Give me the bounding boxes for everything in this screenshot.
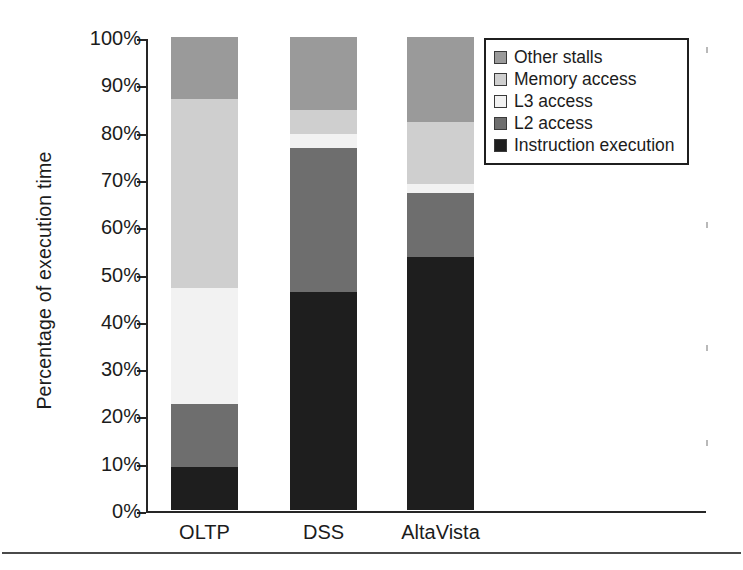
legend-item-label: L2 access: [514, 114, 593, 133]
legend-swatch-icon: [494, 73, 507, 86]
figure: Percentage of execution time 100%90%80%7…: [0, 0, 743, 570]
scan-speckle: [706, 47, 708, 53]
y-axis-title: Percentage of execution time: [33, 61, 56, 501]
y-axis-tick-label: 90%: [101, 74, 141, 96]
legend-item-label: Other stalls: [514, 48, 603, 67]
legend-item[interactable]: L2 access: [494, 112, 675, 134]
stacked-bar-dss: [290, 37, 357, 510]
y-axis-tick-label: 30%: [101, 358, 141, 380]
x-axis-line: [146, 511, 706, 513]
bar-segment: [171, 467, 238, 510]
y-axis-tick-label: 80%: [101, 122, 141, 144]
legend-swatch-icon: [494, 139, 507, 152]
legend-item[interactable]: L3 access: [494, 90, 675, 112]
legend-item-label: Memory access: [514, 70, 637, 89]
y-axis-tick-label: 70%: [101, 169, 141, 191]
legend-item[interactable]: Instruction execution: [494, 134, 675, 156]
legend-item-label: L3 access: [514, 92, 593, 111]
bar-segment: [171, 37, 238, 98]
scan-speckle: [706, 440, 708, 446]
bar-segment: [290, 134, 357, 148]
y-axis-tick-label: 20%: [101, 405, 141, 427]
bar-segment: [407, 37, 474, 122]
legend-item-label: Instruction execution: [514, 136, 675, 155]
bar-segment: [407, 122, 474, 183]
bar-segment: [290, 37, 357, 110]
scan-speckle: [706, 222, 708, 228]
legend-swatch-icon: [494, 117, 507, 130]
y-axis-tick-label: 40%: [101, 311, 141, 333]
bar-segment: [290, 148, 357, 292]
y-axis-line: [146, 39, 148, 513]
y-axis-tick-label: 60%: [101, 216, 141, 238]
legend-item[interactable]: Other stalls: [494, 46, 675, 68]
scan-speckle: [706, 345, 708, 351]
x-axis-tick-label-altavista: AltaVista: [371, 521, 511, 544]
legend-swatch-icon: [494, 51, 507, 64]
bar-segment: [407, 193, 474, 257]
y-axis-tick-label: 0%: [112, 500, 141, 522]
legend-item[interactable]: Memory access: [494, 68, 675, 90]
bar-segment: [171, 288, 238, 404]
y-axis-tick-label: 50%: [101, 264, 141, 286]
page-horizontal-rule: [2, 552, 741, 554]
bar-segment: [171, 99, 238, 288]
stacked-bar-altavista: [407, 37, 474, 510]
bar-segment: [171, 404, 238, 468]
legend-swatch-icon: [494, 95, 507, 108]
bar-segment: [407, 257, 474, 510]
stacked-bar-oltp: [171, 37, 238, 510]
bar-segment: [290, 110, 357, 134]
legend: Other stallsMemory accessL3 accessL2 acc…: [484, 38, 689, 165]
bar-segment: [407, 184, 474, 193]
bar-segment: [290, 292, 357, 510]
y-axis-tick-label: 10%: [101, 453, 141, 475]
y-axis-tick-label: 100%: [90, 27, 141, 49]
